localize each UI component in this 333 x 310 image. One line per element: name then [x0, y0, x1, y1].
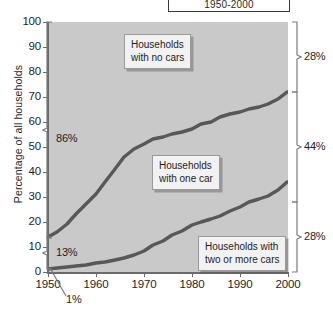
callout-two-or-more-cars: Households with two or more cars	[198, 236, 286, 271]
x-tick-1960	[96, 272, 97, 277]
x-tick-1970	[144, 272, 145, 277]
callout-no-cars: Households with no cars	[124, 34, 191, 69]
callout-one-car: Households with one car	[152, 155, 220, 190]
annotation-bottom-1: 1%	[66, 293, 82, 305]
x-label-1960: 1960	[76, 278, 116, 290]
y-label-0: 0	[11, 265, 41, 277]
right-bracket-28-bottom	[290, 200, 302, 276]
x-label-1990: 1990	[220, 278, 260, 290]
y-label-10: 10	[11, 240, 41, 252]
callout-no-cars-line2: with no cars	[131, 51, 184, 64]
left-bracket-86	[42, 20, 54, 242]
annotation-right-44: 44%	[304, 140, 325, 152]
callout-one-car-line2: with one car	[159, 172, 213, 185]
annotation-left-13: 13%	[56, 246, 77, 258]
right-bracket-44	[290, 90, 302, 206]
callout-two-cars-line2: two or more cars	[205, 253, 279, 266]
y-label-100: 100	[11, 15, 41, 27]
x-axis-line	[47, 272, 289, 274]
chart-root: 1950-2000 0 10 20 30 40 50 60 70 80 90 1…	[0, 0, 333, 310]
annotation-right-28-bottom: 28%	[304, 230, 325, 242]
x-label-1970: 1970	[124, 278, 164, 290]
annotation-left-86: 86%	[56, 132, 77, 144]
x-label-1980: 1980	[172, 278, 212, 290]
y-axis-title: Percentage of all households	[12, 39, 24, 229]
right-bracket-28-top	[290, 20, 302, 96]
callout-one-car-line1: Households	[159, 159, 213, 172]
chart-title: 1950-2000	[204, 0, 254, 10]
chart-title-box: 1950-2000	[168, 0, 290, 12]
x-tick-1980	[192, 272, 193, 277]
callout-no-cars-line1: Households	[131, 38, 184, 51]
annotation-right-28-top: 28%	[304, 50, 325, 62]
callout-two-cars-line1: Households with	[205, 240, 279, 253]
x-tick-1990	[240, 272, 241, 277]
x-label-2000: 2000	[268, 278, 308, 290]
